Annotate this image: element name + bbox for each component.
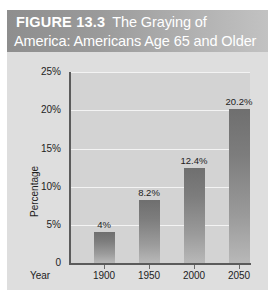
figure-number-label: FIGURE 13.3 xyxy=(16,14,105,30)
bar-1900 xyxy=(94,232,115,263)
bar-2000 xyxy=(184,168,205,263)
y-axis-title: Percentage xyxy=(29,166,40,217)
chart-panel: 25% 20% 15% 10% 5% 0 Percentage Year 190… xyxy=(7,52,268,290)
gridline-25 xyxy=(70,72,250,73)
x-tick-label-2050: 2050 xyxy=(216,270,262,281)
y-tick-label-10: 10% xyxy=(21,181,61,192)
bar-value-2050: 20.2% xyxy=(216,96,262,107)
x-tick-1950 xyxy=(149,265,150,269)
figure-title-line-1: FIGURE 13.3The Graying of xyxy=(14,13,262,32)
y-axis-line xyxy=(69,72,71,264)
x-tick-label-2000: 2000 xyxy=(171,270,217,281)
y-tick-label-5: 5% xyxy=(21,219,61,230)
bar-value-2000: 12.4% xyxy=(171,155,217,166)
x-axis-title: Year xyxy=(17,270,63,281)
y-tick-label-0: 0 xyxy=(21,257,61,268)
bar-value-1900: 4% xyxy=(81,219,127,230)
bar-2050 xyxy=(229,109,250,263)
x-tick-label-1900: 1900 xyxy=(81,270,127,281)
gridline-15 xyxy=(70,149,250,150)
bar-value-1950: 8.2% xyxy=(126,187,172,198)
x-axis-line xyxy=(69,263,251,265)
figure-container: FIGURE 13.3The Graying of America: Ameri… xyxy=(0,0,276,296)
x-tick-label-1950: 1950 xyxy=(126,270,172,281)
x-tick-2050 xyxy=(239,265,240,269)
y-tick-label-20: 20% xyxy=(21,104,61,115)
y-tick-label-25: 25% xyxy=(21,66,61,77)
bar-1950 xyxy=(139,200,160,263)
figure-title-banner: FIGURE 13.3The Graying of America: Ameri… xyxy=(7,10,268,52)
y-tick-label-15: 15% xyxy=(21,143,61,154)
x-tick-1900 xyxy=(104,265,105,269)
x-tick-2000 xyxy=(194,265,195,269)
gridline-20 xyxy=(70,110,250,111)
figure-title-line-2: America: Americans Age 65 and Older xyxy=(14,32,262,51)
figure-title-line-1-text: The Graying of xyxy=(112,14,207,30)
